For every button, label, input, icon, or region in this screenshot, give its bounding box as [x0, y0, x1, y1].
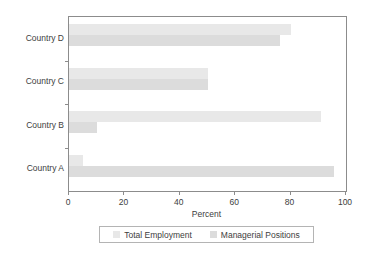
- bar: [69, 155, 83, 166]
- y-axis-label: Country B: [0, 120, 64, 130]
- legend-item-managerial-positions[interactable]: Managerial Positions: [210, 230, 300, 240]
- bar-group: [69, 104, 346, 148]
- bar-chart: Country DCountry CCountry BCountry A 020…: [0, 0, 370, 258]
- legend-item-total-employment[interactable]: Total Employment: [113, 230, 192, 240]
- x-axis-tick-label: 20: [108, 197, 138, 207]
- x-axis-tick: [345, 191, 346, 195]
- x-axis-tick-label: 0: [53, 197, 83, 207]
- y-axis-label: Country D: [0, 33, 64, 43]
- plot-area: [68, 16, 347, 192]
- bar: [69, 111, 321, 122]
- x-axis-tick: [234, 191, 235, 195]
- x-axis-tick: [290, 191, 291, 195]
- x-axis-title: Percent: [68, 209, 345, 219]
- bar: [69, 24, 291, 35]
- bar-group: [69, 61, 346, 105]
- bar: [69, 68, 208, 79]
- legend-swatch-managerial-positions: [210, 231, 217, 238]
- x-axis-tick-label: 100: [330, 197, 360, 207]
- x-axis-tick: [68, 191, 69, 195]
- x-axis-tick: [123, 191, 124, 195]
- bar: [69, 122, 97, 133]
- legend-label-managerial-positions: Managerial Positions: [221, 230, 300, 240]
- bar: [69, 166, 334, 177]
- y-axis-label: Country A: [0, 163, 64, 173]
- y-axis-label: Country C: [0, 76, 64, 86]
- x-axis-tick-label: 60: [219, 197, 249, 207]
- legend-label-total-employment: Total Employment: [124, 230, 192, 240]
- x-axis-tick-label: 40: [164, 197, 194, 207]
- x-axis-tick: [179, 191, 180, 195]
- bar: [69, 35, 280, 46]
- bar-group: [69, 148, 346, 192]
- bar-group: [69, 17, 346, 61]
- legend-swatch-total-employment: [113, 231, 120, 238]
- bar: [69, 79, 208, 90]
- chart-legend: Total Employment Managerial Positions: [99, 226, 314, 243]
- x-axis-tick-label: 80: [275, 197, 305, 207]
